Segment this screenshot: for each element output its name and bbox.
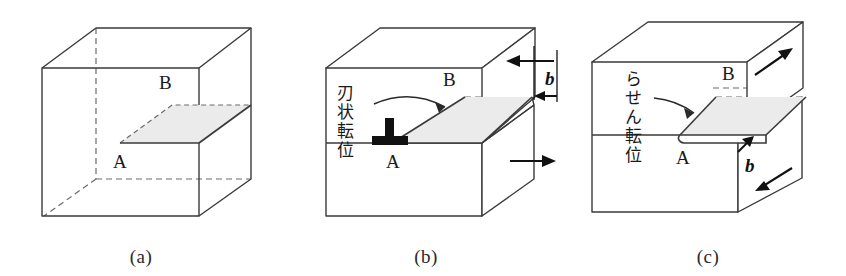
diagram-cube-intact: B A [0, 0, 282, 240]
edge-dislocation-annotation: 刃状転位 [334, 84, 354, 160]
burgers-vector-label: b [545, 68, 555, 89]
panel-b: 刃状転位 B A b (b [282, 0, 570, 276]
diagram-edge-dislocation: 刃状転位 B A b [282, 0, 570, 240]
panel-c: らせん転位 B A b (c) [570, 0, 846, 276]
label-point-a: A [386, 151, 400, 172]
diagram-screw-dislocation: らせん転位 B A b [570, 0, 846, 240]
caption-a: (a) [0, 246, 282, 268]
label-point-a: A [676, 147, 690, 168]
panel-a: B A (a) [0, 0, 282, 276]
label-point-b: B [722, 63, 735, 84]
slip-plane-surface [120, 105, 251, 143]
burgers-vector-label: b [745, 155, 755, 176]
dislocation-symbol [372, 118, 408, 145]
leader-arrow [654, 98, 694, 119]
caption-c: (c) [570, 246, 846, 268]
caption-b: (b) [282, 246, 570, 268]
label-point-b: B [443, 69, 456, 90]
label-point-a: A [113, 151, 127, 172]
label-point-b: B [159, 72, 172, 93]
leader-arrow [374, 97, 445, 113]
screw-dislocation-annotation: らせん転位 [622, 70, 642, 165]
